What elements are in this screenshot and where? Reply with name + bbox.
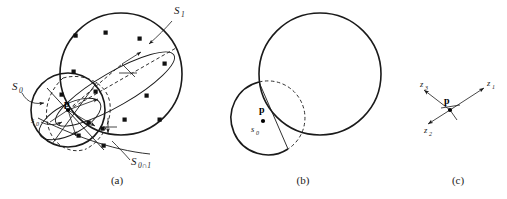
panel-a-label-s0small-sub: 0	[36, 121, 39, 127]
sample-point-square	[158, 118, 162, 122]
panel-b-label-s0small-base: s	[251, 124, 255, 134]
panel-a-dashed-ray-upper	[68, 48, 176, 110]
panel-a-ellipse-band	[48, 40, 183, 137]
sample-point-square	[102, 144, 106, 148]
panel-a-local-frame	[119, 52, 141, 77]
sample-point-square	[87, 121, 91, 125]
panel-b-small-circle-visible-arc	[231, 82, 288, 155]
panel-c: p z 1 z 2 z 3 (c)	[419, 78, 495, 187]
sample-point-square	[163, 62, 167, 66]
panel-b-big-circle	[259, 13, 381, 135]
panel-b-label-point-p: p	[259, 104, 265, 115]
sample-point-square	[145, 94, 149, 98]
panel-a-caption: (a)	[111, 174, 124, 187]
panel-a-label-s1-base: S	[174, 4, 180, 16]
sample-point-square	[77, 134, 81, 138]
panel-c-label-z2-base: z	[423, 125, 428, 135]
sample-point-square	[94, 90, 98, 94]
sample-point-square	[101, 127, 105, 131]
figure-container: S 1 S 0 s 0 S 0∩1 p (a) p s 0	[0, 0, 507, 199]
panel-b-small-circle-hidden-arc	[259, 81, 305, 149]
panel-a-s1-leader	[149, 21, 172, 44]
panel-b-caption: (b)	[297, 174, 310, 187]
panel-a-label-point-p: p	[64, 98, 70, 109]
panel-c-label-z1-base: z	[486, 78, 491, 88]
panel-a-label-s0cap1-base: S	[131, 155, 137, 167]
panel-a-label-s1-sub: 1	[181, 10, 185, 19]
sample-point-square	[74, 34, 78, 38]
panel-a-dashed-ray-frame	[68, 64, 122, 110]
sample-point-square	[60, 93, 64, 97]
panel-c-label-point-p: p	[444, 95, 450, 106]
panel-c-label-z3-sub: 3	[424, 85, 428, 91]
panel-a-label-s0-sub: 0	[19, 86, 23, 95]
panel-a: S 1 S 0 s 0 S 0∩1 p (a)	[12, 4, 185, 187]
panel-a-label-s0cap1-sub: 0∩1	[138, 161, 151, 170]
panel-c-axis-z1	[450, 88, 484, 110]
panel-b-point-p-marker	[261, 119, 265, 123]
panel-a-label-s0-base: S	[12, 80, 18, 92]
panel-b-label-s0small-sub: 0	[256, 130, 259, 136]
panel-b-chord-line	[259, 82, 288, 149]
panel-c-label-z2-sub: 2	[429, 131, 432, 137]
sample-point-square	[138, 37, 142, 41]
panel-a-sample-points	[60, 31, 167, 148]
panel-a-intersection-arrows	[103, 118, 117, 133]
panel-c-label-z3-base: z	[419, 79, 424, 89]
panel-c-label-z1-sub: 1	[492, 84, 495, 90]
panel-c-caption: (c)	[452, 174, 465, 187]
sample-point-square	[123, 118, 127, 122]
panel-c-axis-z2	[428, 110, 450, 124]
panel-b: p s 0 (b)	[231, 13, 381, 187]
sample-point-square	[72, 70, 76, 74]
panel-c-point-p-marker	[448, 108, 452, 112]
sample-point-square	[104, 31, 108, 35]
